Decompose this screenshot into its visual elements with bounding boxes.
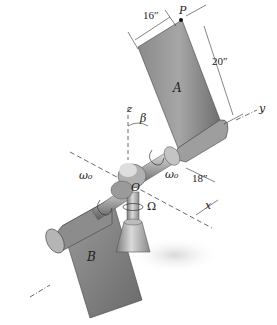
label-point-p: P (179, 5, 186, 16)
label-angle-beta: β (140, 113, 146, 124)
y-axis (236, 110, 257, 120)
dim-offset: 18″ (192, 173, 208, 184)
shaft-axis (30, 285, 50, 297)
label-origin: O (131, 182, 140, 193)
point-p-marker (179, 18, 183, 22)
dim-plate-height: 20″ (212, 56, 228, 67)
plate-a (138, 18, 228, 168)
label-omega: Ω (147, 201, 156, 212)
label-plate-b: B (87, 251, 96, 263)
label-axis-z: z (127, 104, 132, 114)
hub-joint (111, 163, 146, 199)
label-omega0-right: ω₀ (165, 169, 178, 180)
dim-plate-width: 16″ (143, 10, 159, 21)
label-omega0-left: ω₀ (79, 170, 92, 181)
diagram-canvas (0, 0, 277, 325)
label-plate-a: A (173, 82, 182, 94)
label-axis-y: y (259, 103, 265, 114)
mechanics-diagram: P 16″ 20″ A y z β ω₀ ω₀ 18″ O x Ω B (0, 0, 277, 325)
label-axis-x: x (205, 200, 211, 211)
